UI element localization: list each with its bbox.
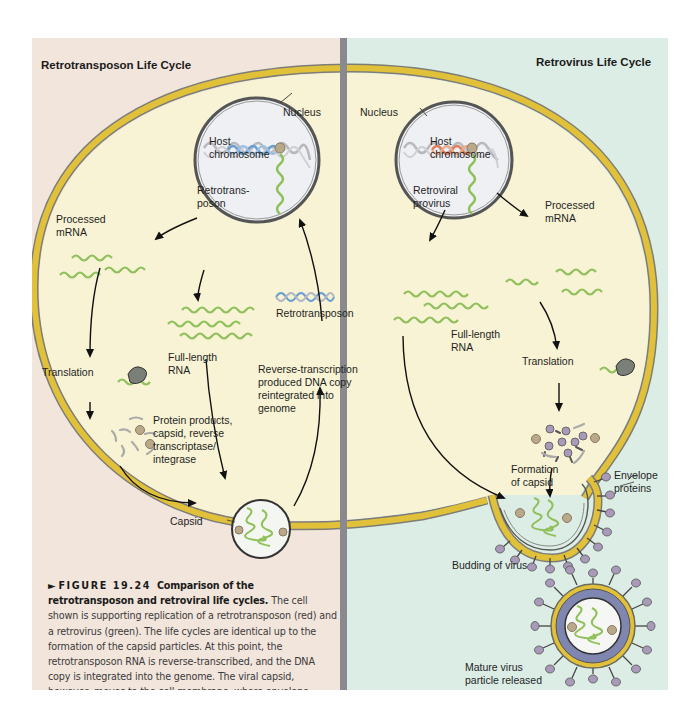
caption-marker-icon: ► [48,580,56,591]
label-processed-mrna-left: Processed mRNA [56,213,106,239]
label-retroviral-provirus: Retroviral provirus [413,184,458,210]
retrotransposon-title: Retrotransposon Life Cycle [41,59,191,71]
label-budding-of-virus: Budding of virus [452,559,527,572]
label-full-length-rna-right: Full-length RNA [451,328,500,354]
retrovirus-title: Retrovirus Life Cycle [536,56,651,68]
label-translation-left: Translation [42,366,94,379]
label-nucleus-right: Nucleus [360,106,398,119]
label-retrotransposon-dna: Retrotransposon [276,307,354,320]
label-protein-products: Protein products, capsid, reverse transc… [153,414,232,466]
label-capsid: Capsid [170,515,203,528]
label-host-chromosome-left: Host chromosome [209,135,270,161]
caption-body: The cell shown is supporting replication… [48,595,338,690]
label-formation-of-capsid: Formation of capsid [511,463,558,489]
label-full-length-rna-left: Full-length RNA [168,351,217,377]
figure-caption: ► FIGURE 19.24 Comparison of the retrotr… [48,578,340,690]
label-host-chromosome-right: Host chromosome [430,135,491,161]
mature-virus [531,566,655,686]
label-nucleus-left: Nucleus [283,106,321,119]
label-mature-virus: Mature virus particle released [465,661,542,687]
caption-figure-number: FIGURE 19.24 [58,580,151,591]
figure: Retrotransposon Life Cycle Retrovirus Li… [32,38,668,690]
capsid-left [232,500,290,558]
label-reverse-transcription: Reverse-transcription produced DNA copy … [258,363,358,415]
label-translation-right: Translation [522,355,574,368]
label-retrotransposon-nucleus: Retrotrans- poson [197,184,250,210]
label-processed-mrna-right: Processed mRNA [545,199,595,225]
label-envelope-proteins: Envelope proteins [614,469,658,495]
